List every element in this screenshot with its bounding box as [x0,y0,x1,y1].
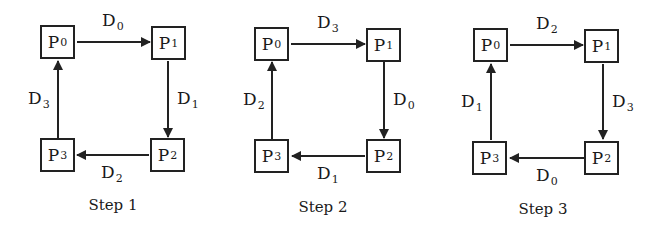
node-label: P [592,150,603,167]
step-caption: Step 1 [63,196,163,214]
node-subscript: 3 [492,153,499,164]
step-3-panel: P0 P1 P2 P3 D2 D3 D0 D1 Step 3 [432,0,652,234]
edge-label-top: D2 [536,15,558,35]
step-1-panel: P0 P1 P2 P3 D0 D1 D2 D3 Step 1 [0,0,220,234]
node-label: P [159,35,170,52]
node-p3: P3 [472,141,507,175]
step-caption: Step 2 [273,198,373,216]
node-p0: P0 [473,28,508,62]
edge-label-bottom: D2 [101,164,123,184]
node-subscript: 0 [60,37,67,48]
node-label: P [48,147,59,164]
node-label: P [262,36,273,53]
node-p3: P3 [40,138,75,172]
node-subscript: 1 [386,40,393,51]
node-p2: P2 [150,138,185,172]
edge-label-left: D1 [461,93,483,113]
edge-label-right: D3 [612,93,634,113]
node-p1: P1 [151,26,186,60]
node-p2: P2 [584,141,619,175]
node-subscript: 1 [604,41,611,52]
edge-label-right: D1 [177,90,199,110]
node-p3: P3 [254,139,289,173]
edge-label-bottom: D1 [317,165,339,185]
node-subscript: 3 [60,150,67,161]
node-p1: P1 [584,29,619,63]
node-label: P [262,148,273,165]
node-p2: P2 [366,139,401,173]
edge-label-top: D3 [317,14,339,34]
node-subscript: 0 [274,39,281,50]
edge-label-left: D3 [28,90,50,110]
node-subscript: 1 [171,38,178,49]
edge-label-left: D2 [243,91,265,111]
node-p1: P1 [366,28,401,62]
edge-label-right: D0 [393,91,415,111]
node-subscript: 3 [274,151,281,162]
node-subscript: 2 [386,151,393,162]
node-label: P [374,37,385,54]
node-p0: P0 [40,25,75,59]
node-label: P [48,34,59,51]
step-3-arrows [432,0,652,234]
step-2-panel: P0 P1 P2 P3 D3 D0 D1 D2 Step 2 [214,0,434,234]
node-label: P [481,37,492,54]
node-p0: P0 [254,27,289,61]
node-label: P [480,150,491,167]
edge-label-top: D0 [102,12,124,32]
node-label: P [158,147,169,164]
node-subscript: 2 [604,153,611,164]
node-subscript: 2 [170,150,177,161]
node-label: P [592,38,603,55]
node-label: P [374,148,385,165]
step-caption: Step 3 [493,200,593,218]
edge-label-bottom: D0 [536,167,558,187]
node-subscript: 0 [493,40,500,51]
